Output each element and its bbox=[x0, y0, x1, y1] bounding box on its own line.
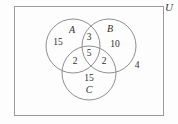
venn-diagram-figure: U A B C 15 10 15 3 2 2 5 4 bbox=[0, 0, 178, 124]
region-value-a-and-b: 3 bbox=[87, 33, 92, 43]
venn-circles-group bbox=[0, 0, 178, 124]
region-value-b-only: 10 bbox=[110, 40, 120, 50]
set-label-c: C bbox=[86, 85, 93, 95]
set-label-a: A bbox=[69, 25, 75, 35]
region-value-b-and-c: 2 bbox=[102, 57, 107, 67]
region-value-outside-all: 4 bbox=[135, 61, 140, 71]
region-value-a-and-c: 2 bbox=[73, 57, 78, 67]
set-label-b: B bbox=[107, 24, 113, 34]
region-value-c-only: 15 bbox=[84, 74, 94, 84]
region-value-a-and-b-and-c: 5 bbox=[87, 49, 92, 59]
region-value-a-only: 15 bbox=[53, 38, 63, 48]
